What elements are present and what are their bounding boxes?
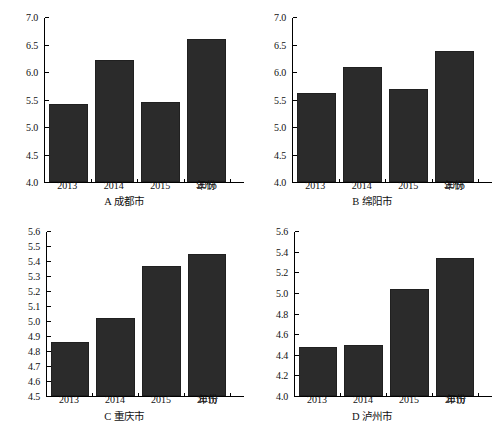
chart-panel-a: 4.04.55.05.56.06.57.0 年份 A 成都市 201320142… xyxy=(0,0,248,218)
y-axis-tick xyxy=(295,375,299,376)
x-axis-label-2013: 2013 xyxy=(305,180,325,191)
plot-area-b: 4.04.55.05.56.06.57.0 xyxy=(292,18,478,183)
y-axis-tick-label: 6.5 xyxy=(26,41,38,51)
y-axis-tick xyxy=(295,231,299,232)
chart-panel-c: 4.54.64.74.84.95.05.15.25.35.45.55.6 年份 … xyxy=(0,218,248,437)
y-axis-tick xyxy=(47,231,51,232)
y-axis-tick-label: 5.5 xyxy=(274,96,286,106)
x-axis-tick xyxy=(184,393,185,397)
x-axis-tick xyxy=(230,179,231,183)
bar-series-b xyxy=(293,18,478,182)
x-axis-label-2013: 2013 xyxy=(307,394,327,405)
x-axis-label-2014: 2014 xyxy=(105,394,125,405)
bar-2013 xyxy=(297,93,336,182)
y-axis-tick-label: 4.0 xyxy=(26,178,38,188)
x-axis-label-2013: 2013 xyxy=(59,394,79,405)
bar-2016 xyxy=(188,254,226,396)
y-axis-tick-label: 5.5 xyxy=(26,96,38,106)
x-axis-label-2015: 2015 xyxy=(399,394,419,405)
x-axis-label-2013: 2013 xyxy=(57,180,77,191)
y-axis-tick-label: 5.5 xyxy=(28,242,40,252)
y-axis-tick-label: 5.2 xyxy=(276,268,288,278)
bar-2016 xyxy=(435,51,474,182)
y-axis-tick xyxy=(45,72,49,73)
y-axis-tick-label: 5.6 xyxy=(28,227,40,237)
panel-caption-d: D 泸州市 xyxy=(248,411,496,423)
y-axis-tick-label: 7.0 xyxy=(274,13,286,23)
x-axis-label-2014: 2014 xyxy=(104,180,124,191)
y-axis-tick-label: 5.3 xyxy=(28,272,40,282)
bar-2015 xyxy=(389,89,428,182)
x-axis-label-2015: 2015 xyxy=(151,394,171,405)
y-axis-tick xyxy=(295,293,299,294)
bar-2015 xyxy=(390,289,428,396)
y-axis-tick xyxy=(47,306,51,307)
y-axis-tick xyxy=(47,261,51,262)
y-axis-tick xyxy=(295,272,299,273)
y-axis-tick xyxy=(47,336,51,337)
panel-caption-c: C 重庆市 xyxy=(0,411,248,423)
x-axis-tick xyxy=(386,393,387,397)
bar-2016 xyxy=(436,258,474,396)
y-axis-tick-label: 5.0 xyxy=(276,289,288,299)
y-axis-tick-label: 5.1 xyxy=(28,302,40,312)
y-axis-tick xyxy=(45,155,49,156)
y-axis-tick-label: 4.8 xyxy=(276,310,288,320)
bar-2013 xyxy=(299,347,337,396)
bar-2014 xyxy=(95,60,134,182)
y-axis-tick xyxy=(295,314,299,315)
bar-2015 xyxy=(142,266,180,396)
bar-series-a xyxy=(45,18,230,182)
y-axis-tick-label: 5.4 xyxy=(28,257,40,267)
x-axis-tick xyxy=(339,179,340,183)
y-axis-tick xyxy=(45,45,49,46)
x-axis-tick xyxy=(478,393,479,397)
x-axis-label-2016: 2016 xyxy=(445,394,465,405)
y-axis-tick xyxy=(293,182,297,183)
y-axis-tick xyxy=(293,45,297,46)
y-axis-tick-label: 4.5 xyxy=(28,392,40,402)
y-axis-tick-label: 4.0 xyxy=(274,178,286,188)
y-axis-tick-label: 6.0 xyxy=(26,68,38,78)
x-axis-label-2014: 2014 xyxy=(353,394,373,405)
y-axis-tick xyxy=(293,17,297,18)
panel-caption-b: B 绵阳市 xyxy=(248,196,496,208)
plot-area-d: 4.04.24.44.64.85.05.25.45.6 xyxy=(294,232,478,397)
bar-2013 xyxy=(49,104,88,182)
y-axis-tick xyxy=(47,246,51,247)
y-axis-tick xyxy=(45,127,49,128)
x-axis-tick xyxy=(432,393,433,397)
y-axis-tick-label: 4.4 xyxy=(276,351,288,361)
x-axis-tick xyxy=(91,179,92,183)
y-axis-tick xyxy=(293,127,297,128)
y-axis-tick xyxy=(293,100,297,101)
x-axis-label-2016: 2016 xyxy=(197,394,217,405)
y-axis-tick xyxy=(295,396,299,397)
x-axis-label-2016: 2016 xyxy=(197,180,217,191)
y-axis-tick xyxy=(293,155,297,156)
y-axis-tick-label: 5.6 xyxy=(276,227,288,237)
x-axis-tick xyxy=(340,393,341,397)
plot-area-c: 4.54.64.74.84.95.05.15.25.35.45.55.6 xyxy=(46,232,230,397)
y-axis-tick-label: 5.2 xyxy=(28,287,40,297)
x-axis-tick xyxy=(92,393,93,397)
panel-caption-a: A 成都市 xyxy=(0,196,248,208)
y-axis-tick-label: 5.0 xyxy=(274,123,286,133)
bar-2016 xyxy=(187,39,226,182)
chart-panel-d: 4.04.24.44.64.85.05.25.45.6 年份 D 泸州市 201… xyxy=(248,218,496,437)
y-axis-tick xyxy=(47,291,51,292)
y-axis-tick xyxy=(293,72,297,73)
y-axis-tick xyxy=(295,252,299,253)
bar-2014 xyxy=(343,67,382,182)
y-axis-tick-label: 4.2 xyxy=(276,371,288,381)
y-axis-tick-label: 7.0 xyxy=(26,13,38,23)
figure-panel-grid: 4.04.55.05.56.06.57.0 年份 A 成都市 201320142… xyxy=(0,0,496,437)
x-axis-tick xyxy=(385,179,386,183)
y-axis-tick xyxy=(47,396,51,397)
y-axis-tick xyxy=(47,321,51,322)
y-axis-tick-label: 4.6 xyxy=(276,330,288,340)
x-axis-tick xyxy=(432,179,433,183)
y-axis-tick-label: 5.4 xyxy=(276,248,288,258)
y-axis-tick-label: 6.0 xyxy=(274,68,286,78)
plot-area-a: 4.04.55.05.56.06.57.0 xyxy=(44,18,230,183)
